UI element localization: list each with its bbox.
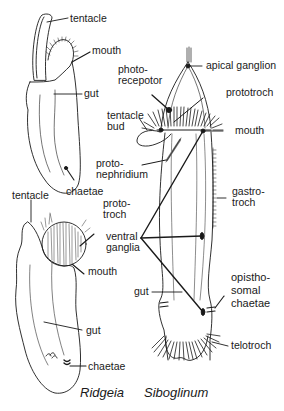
label-apical-ganglion: apical ganglion [206,60,276,71]
label-ridgeia-adult-tentacle: tentacle [70,13,107,24]
label-ridgeia-larva-chaetae: chaetae [88,361,125,372]
label-ridgeia-larva-prototroch: proto- troch [103,198,130,220]
label-siboglinum-gut: gut [134,286,149,297]
species-name-siboglinum: Siboglinum [144,385,208,400]
label-tentacle-bud: tentacle bud [107,110,144,132]
label-protonephridium: proto- nephridium [96,158,148,180]
label-ridgeia-adult-gut: gut [84,88,99,99]
ridgeia-adult-body [26,14,90,193]
ridgeia-larva-body [16,200,94,393]
label-photoreceptor: photo- recepotor [118,64,162,86]
species-name-ridgeia: Ridgeia [80,385,124,400]
label-gastrotroch: gastro- troch [232,186,265,208]
label-ridgeia-larva-mouth: mouth [88,266,117,277]
label-opisthosomal-chaetae: opistho- somal chaetae [231,271,270,310]
label-ridgeia-adult-mouth: mouth [92,45,121,56]
label-ridgeia-larva-tentacle: tentacle [12,190,49,201]
label-ridgeia-larva-gut: gut [86,325,101,336]
siboglinum-body [137,47,228,360]
label-telotroch: telotroch [231,340,271,351]
label-siboglinum-mouth: mouth [235,125,264,136]
label-prototroch: prototroch [226,87,273,98]
label-ridgeia-adult-chaetae: chaetae [66,186,103,197]
label-ventral-ganglia: ventral ganglia [106,231,140,253]
